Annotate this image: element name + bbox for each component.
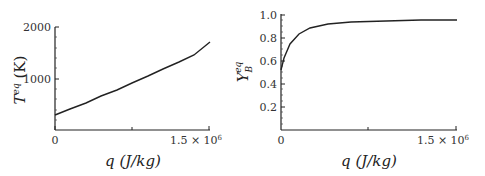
left-xlabel: q (J/kg) xyxy=(105,152,161,170)
right-ylabel: YBeq xyxy=(233,61,254,82)
right-ytick-1-0: 1.0 xyxy=(260,9,278,22)
right-ytick-0-2: 0.2 xyxy=(260,101,278,114)
left-series-line xyxy=(55,42,210,115)
left-xtick-max: 1.5 × 106 xyxy=(170,134,223,147)
figure: 2000 1000 0 1.5 × 106 q (J/kg) Teq (K) 1… xyxy=(0,0,485,176)
right-ytick-0-6: 0.6 xyxy=(260,55,278,68)
left-xtick-0: 0 xyxy=(52,134,59,147)
right-ytick-0-8: 0.8 xyxy=(260,32,278,45)
right-xtick-max: 1.5 × 106 xyxy=(417,134,470,147)
right-ytick-0-4: 0.4 xyxy=(260,78,278,91)
left-ylabel: Teq (K) xyxy=(11,56,29,105)
right-chart: 1.0 0.8 0.6 0.4 0.2 0 1.5 × 106 q (J/kg)… xyxy=(233,9,470,170)
right-xtick-0: 0 xyxy=(278,134,285,147)
left-ytick-2000: 2000 xyxy=(23,21,51,34)
right-series-line xyxy=(281,20,457,70)
left-chart: 2000 1000 0 1.5 × 106 q (J/kg) Teq (K) xyxy=(11,21,223,170)
right-xlabel: q (J/kg) xyxy=(341,152,397,170)
